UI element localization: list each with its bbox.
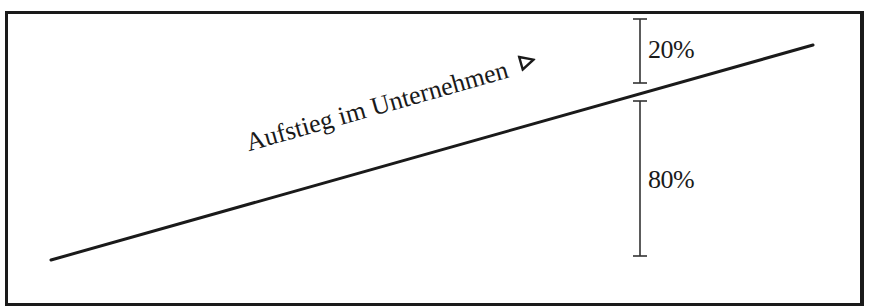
lower-percentage-label: 80% [648, 167, 694, 193]
diagram-canvas [0, 0, 871, 308]
upper-bracket [633, 19, 647, 83]
lower-bracket [633, 101, 647, 256]
upper-percentage-label: 20% [648, 37, 694, 63]
